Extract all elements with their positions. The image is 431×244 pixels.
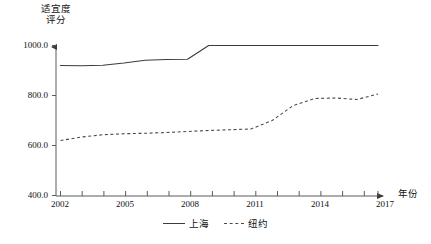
chart-legend: 上海 纽约	[0, 216, 431, 230]
legend-item-newyork: 纽约	[224, 216, 269, 230]
legend-item-shanghai: 上海	[163, 216, 210, 230]
chart-container: 适宜度 评分 年份 1000.0 800.0 600.0 400.0 2002 …	[0, 0, 431, 244]
legend-swatch-dashed-icon	[224, 223, 244, 224]
line-series-newyork	[61, 94, 379, 141]
plot-area	[0, 0, 431, 244]
legend-label-shanghai: 上海	[189, 216, 210, 230]
legend-swatch-solid-icon	[163, 223, 185, 224]
legend-label-newyork: 纽约	[248, 216, 269, 230]
line-series-shanghai	[61, 46, 379, 66]
y-axis-ticks	[52, 46, 56, 196]
x-axis-ticks	[61, 191, 379, 196]
